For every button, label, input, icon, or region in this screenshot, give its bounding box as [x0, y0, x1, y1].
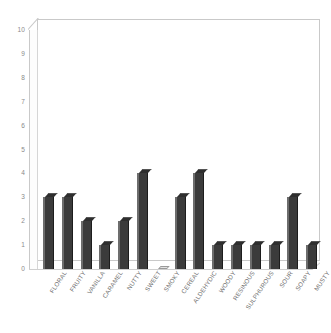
y-axis-tick-label: 3 — [21, 194, 25, 201]
bar-top-cap — [308, 241, 321, 245]
bar-left-highlight — [250, 245, 252, 269]
bar[interactable] — [43, 197, 54, 269]
bar-column[interactable] — [99, 30, 110, 269]
bar-left-highlight — [62, 197, 64, 269]
bar-top-cap — [158, 266, 170, 269]
bar-top-cap — [83, 217, 96, 221]
x-axis-tick-label: MUSTY — [313, 270, 331, 292]
y-axis-tick-label: 10 — [18, 27, 25, 34]
y-axis-tick-label: 9 — [21, 51, 25, 58]
y-axis-tick-label: 5 — [21, 146, 25, 153]
bar[interactable] — [118, 221, 129, 269]
x-axis-tick-label: SOAPY — [295, 270, 313, 292]
bar[interactable] — [269, 245, 280, 269]
bar[interactable] — [81, 221, 92, 269]
bar[interactable] — [287, 197, 298, 269]
bar-left-highlight — [43, 197, 45, 269]
bar-column[interactable] — [62, 30, 73, 269]
bar-column[interactable] — [306, 30, 317, 269]
bar-column[interactable] — [287, 30, 298, 269]
bar-column[interactable] — [156, 30, 167, 269]
bar[interactable] — [175, 197, 186, 269]
bar[interactable] — [137, 173, 148, 269]
bar-top-cap — [289, 193, 302, 197]
bar-left-highlight — [118, 221, 120, 269]
y-axis: 012345678910 — [0, 0, 28, 333]
bar[interactable] — [250, 245, 261, 269]
bar-top-cap — [177, 193, 190, 197]
bar-top-cap — [214, 241, 227, 245]
bar[interactable] — [231, 245, 242, 269]
y-axis-tick-label: 1 — [21, 242, 25, 249]
bar-column[interactable] — [118, 30, 129, 269]
bar-column[interactable] — [81, 30, 92, 269]
x-axis: FLORALFRUITYVANILLACARAMELNUTTYSWEETSMOK… — [38, 270, 329, 333]
x-axis-tick-label: SMOKY — [163, 270, 181, 293]
bar-left-highlight — [306, 245, 308, 269]
bar-column[interactable] — [193, 30, 204, 269]
bar-left-highlight — [269, 245, 271, 269]
bar-left-highlight — [175, 197, 177, 269]
y-axis-tick-label: 4 — [21, 170, 25, 177]
bar-left-highlight — [212, 245, 214, 269]
bar-column[interactable] — [175, 30, 186, 269]
bar-top-cap — [120, 217, 133, 221]
plot-area — [38, 30, 320, 269]
y-axis-tick-label: 8 — [21, 75, 25, 82]
x-axis-tick-label: SOUR — [278, 270, 294, 289]
x-axis-tick-label: NUTTY — [126, 270, 143, 291]
y-axis-tick-label: 6 — [21, 122, 25, 129]
bar[interactable] — [62, 197, 73, 269]
bar-top-cap — [64, 193, 77, 197]
x-axis-tick-label: FLORAL — [49, 270, 68, 294]
bar-top-cap — [195, 169, 208, 173]
bar[interactable] — [306, 245, 317, 269]
bar-top-cap — [271, 241, 284, 245]
bar-column[interactable] — [212, 30, 223, 269]
bar-left-highlight — [287, 197, 289, 269]
y-axis-tick-label: 0 — [21, 266, 25, 273]
bar-left-highlight — [137, 173, 139, 269]
bar[interactable] — [99, 245, 110, 269]
bar-column[interactable] — [137, 30, 148, 269]
bar[interactable] — [193, 173, 204, 269]
bar-top-cap — [139, 169, 152, 173]
bar-top-cap — [233, 241, 246, 245]
y-axis-tick-label: 2 — [21, 218, 25, 225]
bar-column[interactable] — [250, 30, 261, 269]
x-axis-tick-label: SWEET — [144, 270, 162, 293]
bar-left-highlight — [231, 245, 233, 269]
bar-top-cap — [252, 241, 265, 245]
bar-left-highlight — [193, 173, 195, 269]
bar-left-highlight — [81, 221, 83, 269]
bar-top-cap — [45, 193, 58, 197]
bar-column[interactable] — [43, 30, 54, 269]
bar-column[interactable] — [231, 30, 242, 269]
y-axis-tick-label: 7 — [21, 98, 25, 105]
bar[interactable] — [212, 245, 223, 269]
bar-top-cap — [101, 241, 114, 245]
x-axis-tick-label: FRUITY — [69, 270, 87, 293]
plot-side-wall — [29, 30, 38, 269]
bar-left-highlight — [99, 245, 101, 269]
bar-column[interactable] — [269, 30, 280, 269]
